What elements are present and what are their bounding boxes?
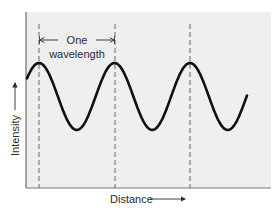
x-axis-label: Distance <box>110 193 153 205</box>
plot-area <box>26 12 271 188</box>
y-axis-label: Intensity <box>9 115 21 156</box>
wavelength-label-line2: wavelength <box>48 48 105 60</box>
wavelength-diagram: One wavelength Intensity Distance <box>0 0 275 214</box>
wavelength-label-line1: One <box>67 34 88 46</box>
